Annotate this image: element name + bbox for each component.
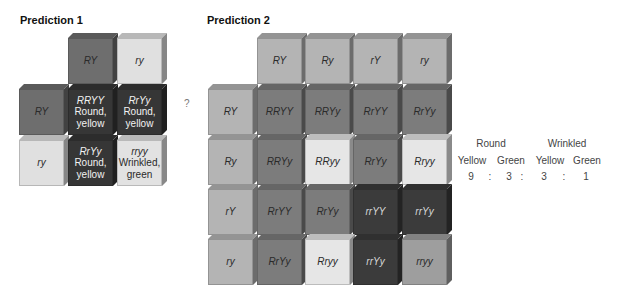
genotype-label: RrYy bbox=[316, 206, 338, 218]
ratio-value: 3 bbox=[541, 171, 547, 182]
prediction-1-title: Prediction 1 bbox=[20, 14, 83, 26]
gamete-label: ry bbox=[37, 157, 45, 169]
genotype-label: RRYy bbox=[315, 106, 341, 118]
p1-row-header-gamete: RY bbox=[19, 89, 64, 135]
p2-col-header-gamete: ry bbox=[402, 38, 447, 84]
p2-col-header-gamete: rY bbox=[353, 38, 398, 84]
gamete-label: RY bbox=[273, 55, 287, 67]
genotype-label: RRYY bbox=[266, 106, 293, 118]
genotype-label: RrYy bbox=[364, 156, 386, 168]
genotype-label: RrYy bbox=[79, 146, 101, 158]
cube-front-face: RrYY bbox=[257, 189, 302, 235]
phenotype-line: Round, bbox=[74, 106, 106, 118]
cube-front-face: RRYY Round, yellow bbox=[68, 89, 113, 135]
p2-row-header-gamete: Ry bbox=[208, 139, 253, 185]
cube-front-face: RRyy bbox=[305, 139, 350, 185]
p2-offspring-cell: RRYY bbox=[257, 89, 302, 135]
gamete-label: ry bbox=[135, 55, 143, 67]
cube-front-face: RrYy Round, yellow bbox=[68, 140, 113, 186]
ratio-subgroup-label: Yellow bbox=[458, 155, 487, 166]
cube-front-face: RY bbox=[68, 38, 113, 84]
genotype-label: RRYy bbox=[267, 156, 293, 168]
p1-col-header-gamete: ry bbox=[117, 38, 162, 84]
cube-side-face bbox=[447, 184, 452, 235]
phenotype-line: yellow bbox=[77, 169, 105, 181]
ratio-value: 9 bbox=[468, 171, 474, 182]
cube-front-face: RrYy bbox=[402, 89, 447, 135]
p1-offspring-cell: rryy Wrinkled, green bbox=[117, 140, 162, 186]
p2-offspring-cell: rrYY bbox=[353, 189, 398, 235]
gamete-label: ry bbox=[420, 55, 428, 67]
phenotype-line: Round, bbox=[74, 157, 106, 169]
cube-front-face: Rryy bbox=[402, 139, 447, 185]
cube-side-face bbox=[162, 84, 167, 135]
cube-front-face: Ry bbox=[208, 139, 253, 185]
cube-front-face: ry bbox=[208, 239, 253, 285]
ratio-separator: : bbox=[521, 171, 524, 182]
cube-side-face bbox=[162, 33, 167, 84]
genotype-label: RrYy bbox=[268, 256, 290, 268]
cube-front-face: RY bbox=[208, 89, 253, 135]
genotype-label: rryy bbox=[131, 146, 148, 158]
gamete-label: Ry bbox=[224, 156, 236, 168]
gamete-label: ry bbox=[226, 256, 234, 268]
p2-offspring-cell: rrYy bbox=[402, 189, 447, 235]
question-mark: ? bbox=[184, 98, 190, 109]
ratio-separator: : bbox=[489, 171, 492, 182]
cube-front-face: RY bbox=[257, 38, 302, 84]
genotype-label: RrYY bbox=[268, 206, 292, 218]
p2-offspring-cell: Rryy bbox=[305, 239, 350, 285]
p2-offspring-cell: RrYy bbox=[353, 139, 398, 185]
p2-offspring-cell: RRyy bbox=[305, 139, 350, 185]
cube-front-face: rrYy bbox=[353, 239, 398, 285]
gamete-label: RY bbox=[224, 106, 238, 118]
ratio-subgroup-label: Yellow bbox=[536, 155, 565, 166]
gamete-label: Ry bbox=[321, 55, 333, 67]
p2-offspring-cell: RrYy bbox=[402, 89, 447, 135]
cube-front-face: RrYy Round, yellow bbox=[117, 89, 162, 135]
ratio-value: 3 bbox=[506, 171, 512, 182]
p2-row-header-gamete: ry bbox=[208, 239, 253, 285]
p2-offspring-cell: RrYY bbox=[257, 189, 302, 235]
genotype-label: rrYy bbox=[415, 206, 433, 218]
genotype-label: RRYY bbox=[77, 95, 104, 107]
ratio-group-wrinkled: Wrinkled bbox=[548, 138, 587, 149]
p2-offspring-cell: rrYy bbox=[353, 239, 398, 285]
cube-front-face: rrYy bbox=[402, 189, 447, 235]
p2-offspring-cell: RrYy bbox=[305, 189, 350, 235]
ratio-value: 1 bbox=[583, 171, 589, 182]
p1-row-header-gamete: ry bbox=[19, 140, 64, 186]
cube-front-face: rY bbox=[353, 38, 398, 84]
cube-front-face: ry bbox=[19, 140, 64, 186]
phenotype-line: green bbox=[127, 169, 153, 181]
ratio-subgroup-label: Green bbox=[497, 155, 525, 166]
phenotype-line: yellow bbox=[126, 118, 154, 130]
p2-offspring-cell: rryy bbox=[402, 239, 447, 285]
p2-offspring-cell: Rryy bbox=[402, 139, 447, 185]
p2-col-header-gamete: Ry bbox=[305, 38, 350, 84]
genotype-label: RrYY bbox=[364, 106, 388, 118]
genotype-label: RrYy bbox=[128, 95, 150, 107]
p1-offspring-cell: RRYY Round, yellow bbox=[68, 89, 113, 135]
genotype-label: RRyy bbox=[315, 156, 339, 168]
cube-front-face: RRYy bbox=[305, 89, 350, 135]
p1-offspring-cell: RrYy Round, yellow bbox=[117, 89, 162, 135]
cube-front-face: Rryy bbox=[305, 239, 350, 285]
p2-row-header-gamete: RY bbox=[208, 89, 253, 135]
ratio-separator: : bbox=[563, 171, 566, 182]
cube-front-face: RrYy bbox=[305, 189, 350, 235]
cube-front-face: ry bbox=[402, 38, 447, 84]
cube-front-face: RrYY bbox=[353, 89, 398, 135]
genotype-label: RrYy bbox=[413, 106, 435, 118]
p2-offspring-cell: RrYy bbox=[257, 239, 302, 285]
ratio-subgroup-label: Green bbox=[573, 155, 601, 166]
gamete-label: RY bbox=[35, 106, 49, 118]
p2-offspring-cell: RRYy bbox=[305, 89, 350, 135]
p1-col-header-gamete: RY bbox=[68, 38, 113, 84]
cube-front-face: RY bbox=[19, 89, 64, 135]
p2-offspring-cell: RRYy bbox=[257, 139, 302, 185]
phenotype-line: yellow bbox=[77, 118, 105, 130]
cube-front-face: rryy bbox=[402, 239, 447, 285]
cube-side-face bbox=[447, 234, 452, 285]
cube-front-face: RrYy bbox=[257, 239, 302, 285]
